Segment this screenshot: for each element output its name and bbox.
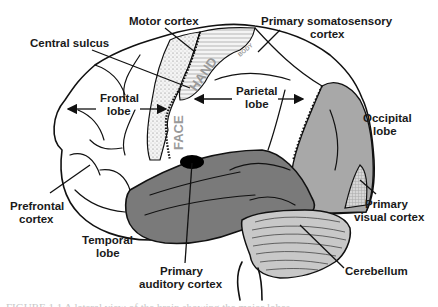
label-visual-1: Primary [365, 198, 408, 210]
label-somatosensory-2: cortex [310, 28, 345, 40]
brain-diagram: FACE HAND BODY Motor cortex Primary soma… [0, 0, 438, 307]
prefrontal-leader [50, 165, 90, 193]
label-prefrontal-1: Prefrontal [10, 200, 64, 212]
label-visual-2: visual cortex [354, 211, 425, 223]
label-parietal-2: lobe [245, 98, 269, 110]
face-label: FACE [171, 115, 186, 150]
label-frontal-1: Frontal [100, 92, 139, 104]
label-temporal-2: lobe [96, 247, 120, 259]
label-somatosensory-1: Primary somatosensory [261, 15, 393, 27]
label-prefrontal-2: cortex [19, 213, 54, 225]
label-central-sulcus: Central sulcus [30, 37, 109, 49]
figure-caption: FIGURE 1.1 A lateral view of the brain s… [6, 300, 436, 307]
label-occipital-1: Occipital [363, 112, 412, 124]
label-parietal-1: Parietal [236, 85, 278, 97]
label-auditory-2: auditory cortex [139, 278, 223, 290]
label-temporal-1: Temporal [82, 234, 133, 246]
label-occipital-2: lobe [373, 125, 397, 137]
label-cerebellum: Cerebellum [345, 265, 408, 277]
label-motor-cortex: Motor cortex [129, 15, 199, 27]
brainstem [238, 262, 242, 300]
label-frontal-2: lobe [107, 105, 131, 117]
label-auditory-1: Primary [160, 265, 203, 277]
somatosensory-leader [258, 30, 280, 52]
